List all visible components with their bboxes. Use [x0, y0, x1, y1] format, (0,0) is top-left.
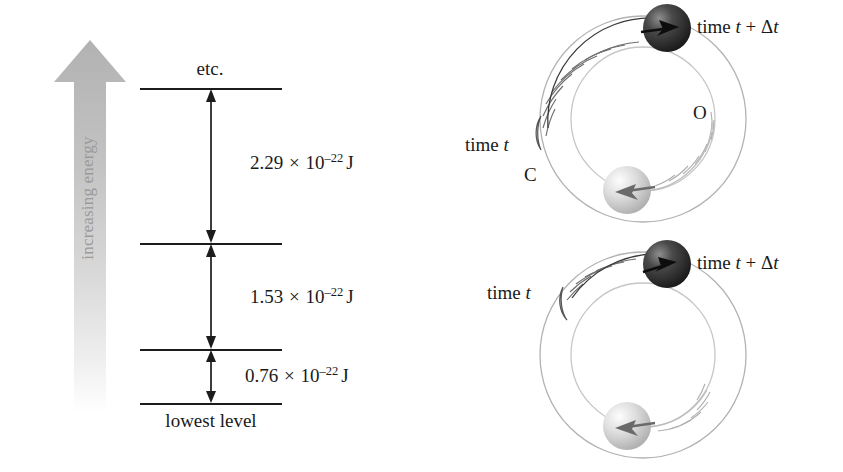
- gap-middle-unit: J: [343, 286, 353, 307]
- gap-lower-unit: J: [338, 365, 348, 386]
- energy-gap-label-upper: 2.29 × 10–22J: [250, 151, 354, 174]
- etc-caption: etc.: [145, 58, 275, 80]
- energy-gap-arrow-lower: [204, 350, 218, 403]
- fast-time-final-label: time t + Δt: [697, 16, 779, 38]
- gap-middle-base: 10: [305, 286, 324, 307]
- energy-level-diagram: increasing energy etc. lowest level: [0, 0, 420, 472]
- rotor-fast-graphic: [515, 4, 775, 234]
- energy-gap-label-middle: 1.53 × 10–22J: [250, 285, 354, 308]
- fast-time-initial-label: time t: [465, 134, 509, 156]
- gap-lower-base: 10: [300, 365, 319, 386]
- carbon-atom-label: C: [524, 164, 537, 186]
- increasing-energy-arrow: increasing energy: [52, 38, 128, 413]
- energy-level-line-lowest: [140, 403, 282, 405]
- gap-upper-base: 10: [305, 152, 324, 173]
- increasing-energy-label: increasing energy: [78, 98, 98, 298]
- slow-time-final-label: time t + Δt: [697, 252, 779, 274]
- gap-upper-exponent: –22: [324, 151, 343, 165]
- slow-time-initial-label: time t: [487, 282, 531, 304]
- double-arrow-icon: [204, 89, 218, 243]
- rotor-slow-graphic: [515, 240, 775, 470]
- gap-middle-mantissa: 1.53: [250, 286, 283, 307]
- gap-upper-mantissa: 2.29: [250, 152, 283, 173]
- double-arrow-icon: [204, 244, 218, 349]
- gap-lower-exponent: –22: [319, 364, 338, 378]
- gap-middle-exponent: –22: [324, 285, 343, 299]
- gap-lower-mantissa: 0.76: [245, 365, 278, 386]
- rotor-fast-rotation: time t + Δt time t C O: [515, 4, 775, 238]
- energy-gap-label-lower: 0.76 × 10–22J: [245, 364, 349, 387]
- energy-gap-arrow-middle: [204, 244, 218, 349]
- carbon-start-crescent: [560, 287, 567, 320]
- physics-figure: increasing energy etc. lowest level: [0, 0, 843, 472]
- gap-upper-times: ×: [288, 152, 301, 173]
- lowest-level-caption: lowest level: [135, 410, 287, 432]
- gap-middle-times: ×: [288, 286, 301, 307]
- molecule-rotation-diagrams: time t + Δt time t C O: [420, 0, 843, 472]
- gap-lower-times: ×: [283, 365, 296, 386]
- energy-gap-arrow-upper: [204, 89, 218, 243]
- oxygen-atom-label: O: [693, 102, 707, 124]
- rotor-slow-rotation: time t + Δt time t: [515, 240, 775, 472]
- double-arrow-icon: [204, 350, 218, 403]
- gap-upper-unit: J: [343, 152, 353, 173]
